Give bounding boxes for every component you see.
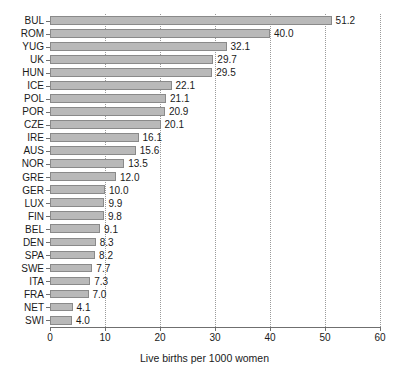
bar-net — [50, 303, 73, 312]
plot-area: 0102030405060Live births per 1000 womenB… — [0, 0, 409, 376]
category-label-net: NET — [0, 301, 44, 314]
bar-value-label-bul: 51.2 — [336, 14, 355, 27]
category-label-ice: ICE — [0, 79, 44, 92]
category-label-aus: AUS — [0, 144, 44, 157]
bar-row: ROM40.0 — [0, 27, 409, 40]
bar-value-label-spa: 8.2 — [99, 249, 113, 262]
bar-row: ICE22.1 — [0, 79, 409, 92]
bar-bul — [50, 16, 332, 25]
bar-value-label-aus: 15.6 — [140, 144, 159, 157]
bar-row: DEN8.3 — [0, 236, 409, 249]
bar-value-label-ita: 7.3 — [94, 275, 108, 288]
category-label-lux: LUX — [0, 197, 44, 210]
category-label-nor: NOR — [0, 157, 44, 170]
bar-chart: 0102030405060Live births per 1000 womenB… — [0, 0, 409, 376]
bar-value-label-por: 20.9 — [169, 105, 188, 118]
bar-cze — [50, 120, 161, 129]
bar-row: BUL51.2 — [0, 14, 409, 27]
category-label-gre: GRE — [0, 171, 44, 184]
bar-spa — [50, 251, 95, 260]
bar-row: NOR13.5 — [0, 157, 409, 170]
bar-row: AUS15.6 — [0, 144, 409, 157]
bar-row: BEL9.1 — [0, 223, 409, 236]
x-axis-tick — [380, 327, 381, 331]
bar-value-label-uk: 29.7 — [217, 53, 236, 66]
category-label-uk: UK — [0, 53, 44, 66]
bar-value-label-nor: 13.5 — [128, 157, 147, 170]
bar-uk — [50, 55, 213, 64]
bar-row: SWE7.7 — [0, 262, 409, 275]
x-axis-title: Live births per 1000 women — [0, 352, 409, 364]
category-label-hun: HUN — [0, 66, 44, 79]
bar-fin — [50, 211, 104, 220]
bar-value-label-ger: 10.0 — [109, 184, 128, 197]
bar-value-label-net: 4.1 — [77, 301, 91, 314]
x-axis-tick-label: 20 — [154, 332, 165, 343]
bar-value-label-swe: 7.7 — [96, 262, 110, 275]
bar-row: GER10.0 — [0, 184, 409, 197]
bar-gre — [50, 172, 116, 181]
category-label-fin: FIN — [0, 210, 44, 223]
bar-hun — [50, 68, 212, 77]
bar-row: POR20.9 — [0, 105, 409, 118]
bar-row: CZE20.1 — [0, 118, 409, 131]
bar-value-label-swi: 4.0 — [76, 314, 90, 327]
bar-value-label-lux: 9.9 — [108, 197, 122, 210]
x-axis-tick-label: 60 — [374, 332, 385, 343]
bar-value-label-fra: 7.0 — [93, 288, 107, 301]
bar-row: SWI4.0 — [0, 314, 409, 327]
category-label-yug: YUG — [0, 40, 44, 53]
bar-value-label-bel: 9.1 — [104, 223, 118, 236]
bar-value-label-hun: 29.5 — [216, 66, 235, 79]
x-axis-tick-label: 40 — [264, 332, 275, 343]
bar-row: YUG32.1 — [0, 40, 409, 53]
bar-value-label-gre: 12.0 — [120, 171, 139, 184]
bar-rom — [50, 29, 270, 38]
bar-row: FIN9.8 — [0, 210, 409, 223]
category-label-ita: ITA — [0, 275, 44, 288]
x-axis-line — [50, 327, 380, 328]
bar-bel — [50, 224, 100, 233]
bar-row: GRE12.0 — [0, 171, 409, 184]
bar-row: HUN29.5 — [0, 66, 409, 79]
bar-ire — [50, 133, 139, 142]
bar-value-label-fin: 9.8 — [108, 210, 122, 223]
bar-row: UK29.7 — [0, 53, 409, 66]
bar-row: LUX9.9 — [0, 197, 409, 210]
bar-yug — [50, 42, 227, 51]
category-label-cze: CZE — [0, 118, 44, 131]
category-label-rom: ROM — [0, 27, 44, 40]
x-axis-tick-label: 50 — [319, 332, 330, 343]
bar-ger — [50, 185, 105, 194]
category-label-spa: SPA — [0, 249, 44, 262]
bar-row: SPA8.2 — [0, 249, 409, 262]
bar-row: ITA7.3 — [0, 275, 409, 288]
bar-row: NET4.1 — [0, 301, 409, 314]
category-label-den: DEN — [0, 236, 44, 249]
bar-nor — [50, 159, 124, 168]
bar-row: IRE16.1 — [0, 131, 409, 144]
bar-por — [50, 107, 165, 116]
x-axis-tick-label: 10 — [99, 332, 110, 343]
category-label-pol: POL — [0, 92, 44, 105]
category-label-swe: SWE — [0, 262, 44, 275]
bar-aus — [50, 146, 136, 155]
category-label-swi: SWI — [0, 314, 44, 327]
bar-ita — [50, 277, 90, 286]
x-axis-tick-label: 0 — [47, 332, 53, 343]
bar-value-label-yug: 32.1 — [231, 40, 250, 53]
bar-swe — [50, 264, 92, 273]
category-label-bel: BEL — [0, 223, 44, 236]
bar-pol — [50, 94, 166, 103]
bar-swi — [50, 316, 72, 325]
category-label-fra: FRA — [0, 288, 44, 301]
category-label-por: POR — [0, 105, 44, 118]
bar-lux — [50, 198, 104, 207]
bar-ice — [50, 81, 172, 90]
x-axis-tick-label: 30 — [209, 332, 220, 343]
bar-value-label-ire: 16.1 — [143, 131, 162, 144]
category-label-ire: IRE — [0, 131, 44, 144]
bar-row: FRA7.0 — [0, 288, 409, 301]
bar-row: POL21.1 — [0, 92, 409, 105]
bar-value-label-ice: 22.1 — [176, 79, 195, 92]
